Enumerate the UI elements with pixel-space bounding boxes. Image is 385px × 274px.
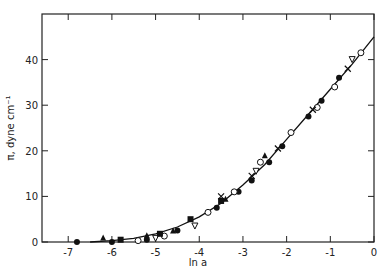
x-axis-label: ln a (189, 257, 207, 268)
data-point-filled-circle (109, 239, 115, 245)
data-point-filled-square (188, 216, 194, 222)
data-point-filled-circle (305, 114, 311, 120)
data-point-open-circle (205, 209, 211, 215)
y-tick-label: 0 (32, 237, 38, 248)
data-point-filled-triangle (262, 152, 268, 158)
data-point-open-circle (231, 189, 237, 195)
data-point-open-circle (135, 238, 141, 244)
y-tick-label: 20 (25, 146, 38, 157)
x-tick-label: -6 (107, 247, 117, 258)
data-point-filled-circle (319, 98, 325, 104)
data-point-filled-circle (266, 159, 272, 165)
x-tick-label: -3 (238, 247, 248, 258)
data-points (74, 50, 364, 245)
data-point-cross (345, 66, 351, 72)
x-tick-label: -2 (282, 247, 292, 258)
data-point-filled-square (118, 237, 124, 243)
data-point-filled-triangle (100, 234, 106, 240)
fit-curve (90, 37, 374, 242)
data-point-open-circle (257, 159, 263, 165)
x-tick-label: -1 (325, 247, 335, 258)
data-point-open-circle (332, 84, 338, 90)
y-tick-label: 30 (25, 100, 38, 111)
y-axis-label: π, dyne cm⁻¹ (5, 96, 16, 161)
data-point-open-triangle-down (192, 223, 198, 229)
data-point-open-circle (358, 50, 364, 56)
data-point-open-circle (288, 130, 294, 136)
data-point-cross (275, 146, 281, 152)
x-tick-label: -5 (151, 247, 161, 258)
data-point-filled-square (157, 231, 163, 237)
data-point-filled-circle (74, 239, 80, 245)
y-tick-label: 40 (25, 55, 38, 66)
chart: -7-6-5-4-3-2-10010203040 ln a π, dyne cm… (0, 0, 385, 274)
axis-ticks: -7-6-5-4-3-2-10010203040 (25, 14, 377, 258)
y-tick-label: 10 (25, 191, 38, 202)
x-tick-label: 0 (371, 247, 377, 258)
data-point-filled-circle (336, 75, 342, 81)
x-tick-label: -7 (63, 247, 73, 258)
data-point-filled-circle (214, 205, 220, 211)
plot-frame (42, 14, 374, 242)
